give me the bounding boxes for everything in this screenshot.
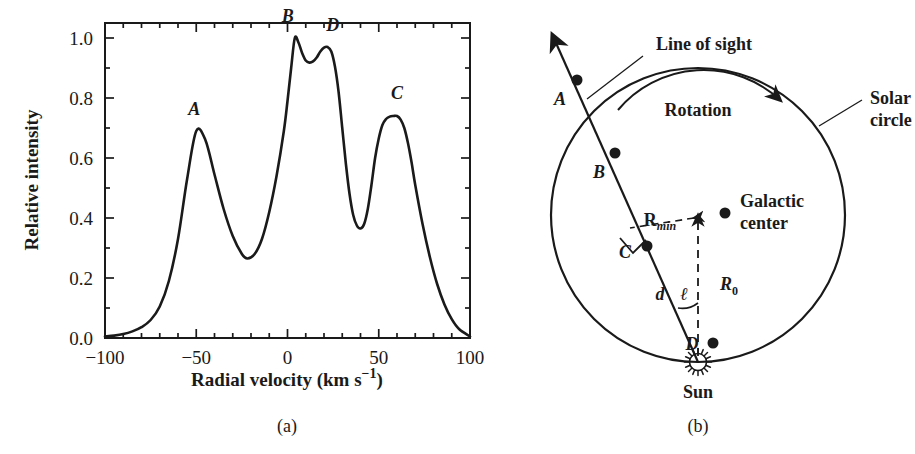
- r-zero-label: R0: [719, 274, 738, 298]
- svg-text:Radial velocity (km s−1): Radial velocity (km s−1): [191, 366, 383, 391]
- sun-label: Sun: [683, 382, 713, 402]
- r-zero-label-subscript: 0: [732, 284, 738, 298]
- r-min-label: Rmin: [644, 210, 677, 233]
- line-of-sight-label: Line of sight: [656, 34, 752, 54]
- y-tick-label: 0.8: [69, 88, 93, 109]
- panel-b-caption: (b): [688, 416, 709, 437]
- rotation-label: Rotation: [665, 100, 732, 120]
- point-b-label: B: [592, 162, 605, 182]
- y-tick-labels: 0.00.20.40.60.81.0: [69, 28, 93, 349]
- x-tick-labels: −100−50050100: [85, 347, 484, 368]
- y-tick-label: 1.0: [69, 28, 93, 49]
- r-min-label-subscript: min: [657, 219, 677, 233]
- solar-circle-label-line2: circle: [870, 110, 912, 130]
- galactic-center-label-line2: center: [740, 213, 788, 233]
- panel-a-caption: (a): [277, 416, 297, 437]
- x-tick-label: 50: [369, 347, 388, 368]
- x-tick-label: −50: [181, 347, 211, 368]
- point-a-marker: [572, 75, 583, 86]
- x-axis-title: Radial velocity (km s−1): [191, 366, 383, 391]
- x-tick-label: 0: [283, 347, 293, 368]
- r-min-label-main: R: [644, 210, 658, 230]
- intensity-curve: [105, 37, 470, 337]
- galactic-longitude-label: ℓ: [680, 284, 688, 304]
- peak-label-c: C: [391, 83, 404, 103]
- solar-circle-label-line1: Solar: [870, 88, 911, 108]
- y-tick-label: 0.2: [69, 268, 93, 289]
- x-axis-title-close: ): [377, 369, 383, 391]
- x-axis-title-superscript: −1: [362, 366, 377, 381]
- point-c-marker: [642, 241, 653, 252]
- peak-label-b: B: [281, 6, 294, 26]
- panel-a-line-profile: −100−50050100 0.00.20.40.60.81.0 ABDC Re…: [0, 0, 470, 454]
- galactic-center-label-line1: Galactic: [740, 191, 804, 211]
- x-axis-title-main: Radial velocity (km s: [191, 369, 361, 391]
- point-b-marker: [610, 148, 621, 159]
- point-d-label: D: [685, 334, 699, 354]
- x-tick-label: −100: [85, 347, 124, 368]
- figure-container: −100−50050100 0.00.20.40.60.81.0 ABDC Re…: [0, 0, 915, 454]
- y-tick-label: 0.6: [69, 148, 93, 169]
- y-tick-label: 0.0: [69, 328, 93, 349]
- chart-svg: −100−50050100 0.00.20.40.60.81.0 ABDC Re…: [0, 0, 470, 454]
- distance-d-label: d: [656, 284, 666, 304]
- solar-circle-leader: [819, 100, 862, 126]
- y-axis-title: Relative intensity: [21, 109, 42, 250]
- peak-label-d: D: [325, 15, 339, 35]
- point-d-marker: [708, 338, 719, 349]
- r-zero-label-main: R: [719, 274, 732, 294]
- point-c-label: C: [619, 242, 632, 262]
- y-tick-label: 0.4: [69, 208, 93, 229]
- panel-b-geometry-diagram: A B C D Line of sight Rotation Solar cir…: [470, 0, 915, 454]
- diagram-svg: A B C D Line of sight Rotation Solar cir…: [470, 0, 915, 454]
- point-a-label: A: [553, 89, 566, 109]
- galactic-center-marker: [720, 208, 731, 219]
- peak-label-a: A: [187, 99, 200, 119]
